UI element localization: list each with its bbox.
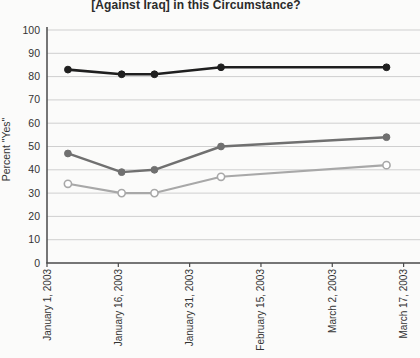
y-tick-label: 70 — [28, 93, 40, 105]
y-tick-label: 10 — [28, 233, 40, 245]
x-tick-label: March 17, 2003 — [398, 269, 409, 339]
medium-gray-series-marker — [383, 134, 390, 141]
dark-series-marker — [151, 71, 158, 78]
dark-series-marker — [65, 66, 72, 73]
dark-series-marker — [383, 64, 390, 71]
y-tick-label: 50 — [28, 140, 40, 152]
y-axis-title: Percent "Yes" — [0, 117, 12, 181]
y-tick-label: 40 — [28, 163, 40, 175]
y-tick-label: 90 — [28, 47, 40, 59]
dark-series-marker — [118, 71, 125, 78]
line-chart-canvas: 0102030405060708090100January 1, 2003Jan… — [0, 0, 420, 358]
x-tick-label: January 16, 2003 — [113, 269, 124, 347]
light-gray-series-marker — [151, 190, 158, 197]
medium-gray-series-marker — [118, 169, 125, 176]
y-tick-label: 100 — [22, 24, 40, 36]
dark-series-marker — [218, 64, 225, 71]
x-tick-label: February 15, 2003 — [255, 269, 266, 351]
y-tick-label: 0 — [34, 257, 40, 269]
y-tick-label: 60 — [28, 117, 40, 129]
y-tick-label: 20 — [28, 210, 40, 222]
y-tick-label: 30 — [28, 187, 40, 199]
y-tick-label: 80 — [28, 70, 40, 82]
dark-series-line — [68, 67, 387, 74]
light-gray-series-marker — [217, 173, 224, 180]
light-gray-series-marker — [118, 190, 125, 197]
light-gray-series-marker — [64, 180, 71, 187]
medium-gray-series-line — [68, 137, 387, 172]
light-gray-series-marker — [383, 162, 390, 169]
x-tick-label: January 31, 2003 — [184, 269, 195, 347]
x-tick-label: January 1, 2003 — [42, 269, 53, 341]
medium-gray-series-marker — [218, 143, 225, 150]
medium-gray-series-marker — [151, 166, 158, 173]
medium-gray-series-marker — [65, 150, 72, 157]
x-tick-label: March 2, 2003 — [327, 269, 338, 333]
